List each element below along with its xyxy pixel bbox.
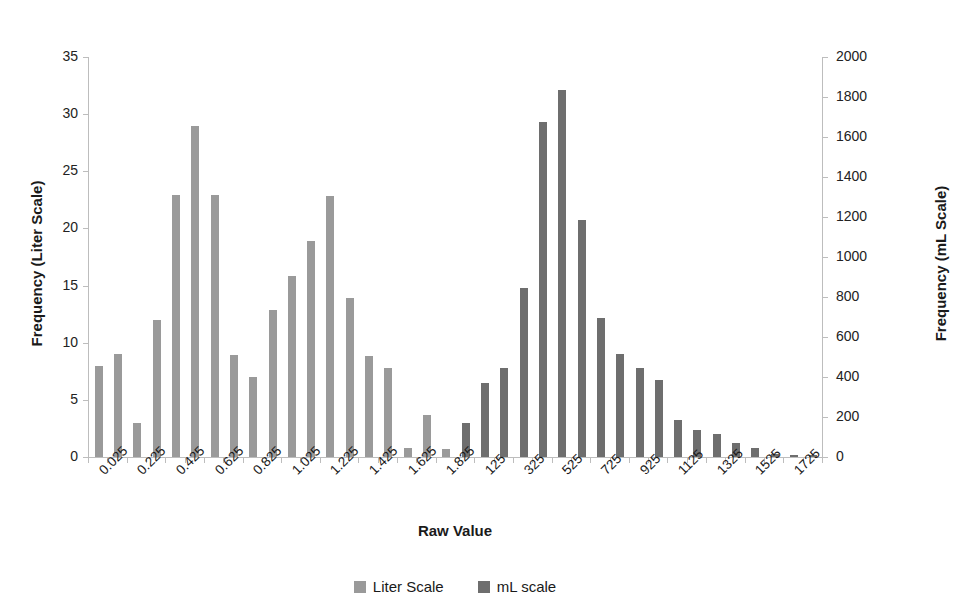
bar [346, 298, 354, 457]
y-axis-left-tick-label: 15 [40, 277, 78, 293]
y-axis-right-tick-label: 200 [836, 408, 882, 424]
x-axis-tick-mark [165, 458, 166, 463]
bar [230, 355, 238, 457]
y-axis-left-tick-label: 0 [40, 448, 78, 464]
y-axis-left-tick-label: 30 [40, 105, 78, 121]
x-axis-tick-mark [783, 458, 784, 463]
legend-swatch-icon [478, 581, 490, 593]
bar [713, 434, 721, 457]
plot-area [88, 57, 822, 457]
y-axis-right-tick-mark [823, 137, 828, 138]
x-axis-tick-mark [667, 458, 668, 463]
x-axis-tick-mark [629, 458, 630, 463]
bar [790, 455, 798, 457]
y-axis-right-tick-mark [823, 177, 828, 178]
y-axis-right-tick-label: 800 [836, 288, 882, 304]
x-axis-tick-mark [127, 458, 128, 463]
y-axis-right-tick-mark [823, 457, 828, 458]
bar [597, 318, 605, 457]
y-axis-right-tick-mark [823, 97, 828, 98]
bar [326, 196, 334, 457]
bar [269, 310, 277, 457]
bar [674, 420, 682, 457]
y-axis-right-tick-label: 1400 [836, 168, 882, 184]
bar [442, 449, 450, 457]
chart-legend: Liter ScalemL scale [0, 578, 910, 595]
bar-chart: Frequency (Liter Scale) Frequency (mL Sc… [0, 0, 957, 616]
x-axis-tick-mark [513, 458, 514, 463]
bar [114, 354, 122, 457]
bar [172, 195, 180, 457]
x-axis-tick-mark [822, 458, 823, 463]
y-axis-right-title: Frequency (mL Scale) [932, 134, 949, 394]
bar [636, 368, 644, 457]
y-axis-right-tick-label: 1600 [836, 128, 882, 144]
legend-item[interactable]: Liter Scale [354, 578, 444, 595]
bar [616, 354, 624, 457]
legend-item[interactable]: mL scale [478, 578, 556, 595]
legend-label: mL scale [497, 578, 556, 595]
bar [95, 366, 103, 457]
y-axis-right-tick-mark [823, 337, 828, 338]
bar [191, 126, 199, 457]
y-axis-right-tick-mark [823, 257, 828, 258]
x-axis-tick-mark [397, 458, 398, 463]
y-axis-right-tick-label: 1200 [836, 208, 882, 224]
y-axis-right-tick-mark [823, 217, 828, 218]
bar [481, 383, 489, 457]
bar [133, 423, 141, 457]
bar [751, 448, 759, 457]
x-axis-tick-mark [204, 458, 205, 463]
y-axis-right-tick-label: 2000 [836, 48, 882, 64]
y-axis-right-tick-mark [823, 297, 828, 298]
bar [404, 448, 412, 457]
y-axis-right-tick-label: 600 [836, 328, 882, 344]
x-axis-title: Raw Value [0, 522, 910, 539]
x-axis-tick-mark [436, 458, 437, 463]
x-axis-tick-mark [745, 458, 746, 463]
y-axis-right-tick-mark [823, 377, 828, 378]
y-axis-left-tick-label: 20 [40, 219, 78, 235]
bar [365, 356, 373, 457]
bar [307, 241, 315, 457]
bar [578, 220, 586, 457]
bar [539, 122, 547, 457]
y-axis-right-tick-label: 1000 [836, 248, 882, 264]
x-axis-tick-mark [358, 458, 359, 463]
bar [288, 276, 296, 457]
y-axis-left-tick-label: 5 [40, 391, 78, 407]
bar [153, 320, 161, 457]
y-axis-right-tick-label: 1800 [836, 88, 882, 104]
y-axis-left-tick-label: 10 [40, 334, 78, 350]
bar [655, 380, 663, 457]
x-axis-tick-mark [706, 458, 707, 463]
bar [211, 195, 219, 457]
y-axis-left-tick-label: 35 [40, 48, 78, 64]
bar [500, 368, 508, 457]
y-axis-right-tick-mark [823, 417, 828, 418]
x-axis-tick-mark [552, 458, 553, 463]
y-axis-right-tick-mark [823, 57, 828, 58]
bar [558, 90, 566, 457]
y-axis-right-tick-label: 0 [836, 448, 882, 464]
x-axis-tick-mark [88, 458, 89, 463]
x-axis-tick-mark [243, 458, 244, 463]
x-axis-tick-mark [590, 458, 591, 463]
bar [520, 288, 528, 457]
y-axis-left-tick-label: 25 [40, 162, 78, 178]
x-axis-tick-mark [474, 458, 475, 463]
legend-label: Liter Scale [373, 578, 444, 595]
legend-swatch-icon [354, 581, 366, 593]
y-axis-right-tick-label: 400 [836, 368, 882, 384]
x-axis-tick-mark [281, 458, 282, 463]
right-axis-line [822, 57, 823, 458]
x-axis-tick-mark [320, 458, 321, 463]
bar [249, 377, 257, 457]
